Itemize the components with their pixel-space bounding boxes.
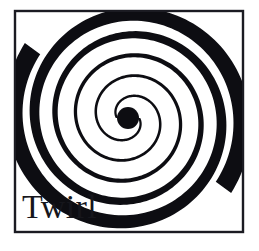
twirl-logo-card: Twirl (0, 0, 259, 251)
spiral-core (117, 107, 139, 129)
twirl-logo-graphic: Twirl (0, 0, 259, 251)
logo-caption: Twirl (22, 188, 97, 225)
